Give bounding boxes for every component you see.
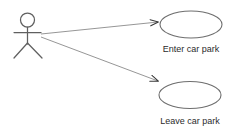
actor-head-icon <box>21 13 35 27</box>
use-case-ellipse-enter-car-park[interactable] <box>160 11 222 38</box>
use-case-diagram-canvas: Enter car park Leave car park <box>0 0 234 132</box>
use-case-ellipse-leave-car-park[interactable] <box>159 82 221 109</box>
actor-left-leg-line <box>14 43 28 58</box>
use-case-label-enter-car-park: Enter car park <box>163 44 220 54</box>
actor-right-leg-line <box>28 43 43 58</box>
use-case-label-leave-car-park: Leave car park <box>160 116 220 126</box>
association-line-leave-car-park <box>41 37 158 81</box>
actor-stick-figure <box>14 13 42 58</box>
use-case-diagram: Enter car park Leave car park <box>0 0 234 132</box>
association-line-enter-car-park <box>41 22 158 34</box>
